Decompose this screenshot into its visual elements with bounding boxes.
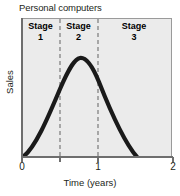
stage-2-word: Stage bbox=[60, 21, 97, 32]
x-tick-label-0: 0 bbox=[12, 161, 32, 173]
stage-label-1: Stage 1 bbox=[22, 21, 59, 42]
x-tick-0-5 bbox=[59, 157, 61, 162]
stage-3-number: 3 bbox=[104, 32, 164, 43]
stage-3-word: Stage bbox=[104, 21, 164, 32]
y-axis-title: Sales bbox=[4, 52, 16, 112]
x-tick-label-2: 2 bbox=[163, 161, 180, 173]
chart-title: Personal computers bbox=[19, 2, 102, 14]
x-tick-label-1: 1 bbox=[88, 161, 108, 173]
stage-2-number: 2 bbox=[60, 32, 97, 43]
stage-label-2: Stage 2 bbox=[60, 21, 97, 42]
stage-label-3: Stage 3 bbox=[104, 21, 164, 42]
sales-curve-path bbox=[23, 58, 137, 157]
stage-1-word: Stage bbox=[22, 21, 59, 32]
stage-1-number: 1 bbox=[22, 32, 59, 43]
y-axis-line bbox=[21, 18, 23, 157]
x-axis-title: Time (years) bbox=[0, 177, 180, 189]
